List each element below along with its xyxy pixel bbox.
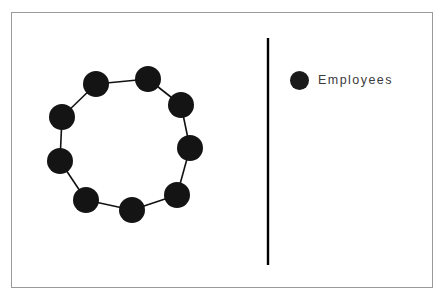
graph-node[interactable]	[135, 66, 161, 92]
graph-node[interactable]	[168, 92, 194, 118]
graph-node[interactable]	[49, 104, 75, 130]
graph-node[interactable]	[73, 187, 99, 213]
graph-node[interactable]	[164, 182, 190, 208]
legend-marker-employees-icon	[290, 71, 309, 90]
graph-node[interactable]	[83, 71, 109, 97]
legend: Employees	[290, 71, 393, 90]
graph-node[interactable]	[119, 197, 145, 223]
graph-node[interactable]	[177, 135, 203, 161]
network-graph	[0, 0, 444, 305]
node-layer	[47, 66, 203, 223]
graph-node[interactable]	[47, 148, 73, 174]
legend-label-employees: Employees	[318, 74, 393, 87]
figure-canvas: " Employees	[0, 0, 444, 305]
